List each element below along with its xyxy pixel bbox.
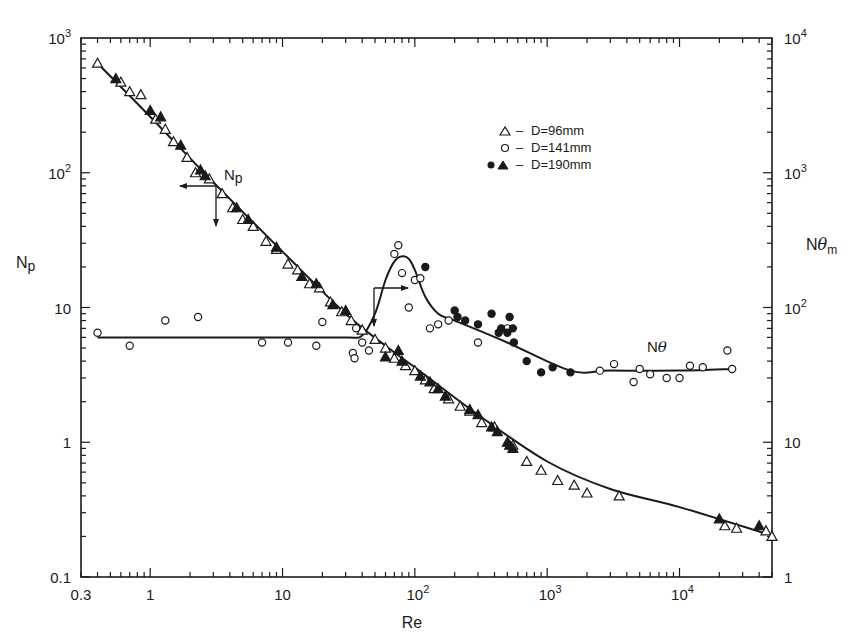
y-right-axis-title-text: Nθm — [806, 235, 837, 257]
filled-circle-marker — [488, 310, 495, 317]
y-left-tick-label: 102 — [48, 162, 71, 182]
data-points — [93, 58, 777, 540]
open-circle-marker — [359, 339, 366, 346]
open-circle-marker — [405, 304, 412, 311]
filled-circle-marker — [509, 325, 516, 332]
filled-circle-marker — [506, 313, 513, 320]
open-circle-marker — [474, 339, 481, 346]
annotations: NpNθ — [180, 166, 667, 356]
legend-dash: – — [516, 123, 524, 138]
y-left-tick-label: 10 — [54, 300, 71, 317]
open-circle-marker — [426, 325, 433, 332]
x-tick-label: 1 — [146, 586, 154, 603]
open-circle-marker — [126, 342, 133, 349]
y-right-tick-label: 10 — [784, 434, 801, 451]
open-circle-marker — [313, 342, 320, 349]
legend: – D=96mm – D=141mm – D=190mm — [488, 123, 592, 172]
filled-circle-marker — [567, 369, 574, 376]
open-triangle-marker — [582, 488, 592, 497]
y-right-tick-label: 1 — [784, 569, 792, 586]
filled-circle-marker — [422, 263, 429, 270]
chart-canvas: 0.31101021031040.1110102103110102103104 … — [0, 0, 868, 642]
open-triangle-marker — [346, 316, 356, 325]
filled-circle-marker — [462, 317, 469, 324]
x-tick-label: 102 — [406, 583, 429, 603]
open-circle-marker — [596, 367, 603, 374]
legend-dash: – — [516, 140, 524, 155]
fit-curves — [98, 63, 766, 533]
filled-triangle-icon — [498, 161, 508, 169]
open-circle-marker — [395, 242, 402, 249]
np-curve-label: Np — [224, 166, 243, 186]
x-tick-label: 103 — [539, 583, 562, 603]
legend-label-d141: D=141mm — [531, 140, 591, 155]
plot-border — [81, 38, 772, 577]
open-circle-marker — [353, 325, 360, 332]
x-tick-label: 10 — [274, 586, 291, 603]
y-right-tick-label: 103 — [784, 162, 807, 182]
legend-label-d96: D=96mm — [531, 123, 584, 138]
open-circle-icon — [502, 145, 509, 152]
filled-circle-marker — [538, 369, 545, 376]
filled-triangle-marker — [393, 345, 403, 354]
open-circle-marker — [435, 321, 442, 328]
n-fit-curve — [98, 256, 733, 373]
open-circle-marker — [94, 329, 101, 336]
open-circle-marker — [676, 374, 683, 381]
legend-item-d190: – D=190mm — [488, 157, 592, 172]
open-circle-marker — [319, 318, 326, 325]
open-circle-marker — [391, 250, 398, 257]
filled-circle-marker — [454, 313, 461, 320]
filled-circle-marker — [523, 358, 530, 365]
open-circle-marker — [194, 313, 201, 320]
filled-circle-marker — [510, 339, 517, 346]
open-triangle-marker — [217, 189, 227, 198]
legend-item-d141: – D=141mm — [502, 140, 592, 155]
plot-frame — [81, 38, 772, 577]
filled-circle-marker — [549, 364, 556, 371]
y-left-tick-label: 103 — [48, 27, 71, 47]
x-tick-label: 0.3 — [71, 586, 92, 603]
np-fit-curve — [98, 63, 766, 533]
filled-triangle-marker — [145, 105, 155, 114]
open-circle-marker — [636, 365, 643, 372]
x-axis-title: Re — [402, 614, 423, 631]
ntheta-curve-label: Nθ — [647, 338, 667, 356]
open-circle-marker — [445, 317, 452, 324]
axis-ticks — [81, 38, 772, 577]
open-circle-marker — [258, 339, 265, 346]
open-circle-marker — [647, 371, 654, 378]
open-circle-marker — [351, 355, 358, 362]
y-left-axis-title-text: Np — [16, 254, 36, 274]
y-left-tick-label: 0.1 — [50, 569, 71, 586]
open-triangle-marker — [569, 480, 579, 489]
open-circle-marker — [729, 365, 736, 372]
open-circle-marker — [724, 347, 731, 354]
y-left-tick-label: 1 — [63, 434, 71, 451]
open-triangle-icon — [500, 127, 510, 135]
legend-dash: – — [516, 157, 524, 172]
legend-item-d96: – D=96mm — [500, 123, 584, 138]
filled-triangle-marker — [380, 352, 390, 361]
open-circle-marker — [365, 347, 372, 354]
open-triangle-marker — [136, 90, 146, 99]
open-circle-marker — [630, 378, 637, 385]
open-circle-marker — [699, 364, 706, 371]
legend-label-d190: D=190mm — [531, 157, 591, 172]
open-triangle-marker — [553, 476, 563, 485]
x-tick-label: 104 — [671, 583, 694, 603]
open-triangle-marker — [182, 152, 192, 161]
filled-triangle-marker — [271, 242, 281, 251]
open-circle-marker — [610, 361, 617, 368]
open-triangle-marker — [93, 58, 103, 67]
open-circle-marker — [417, 275, 424, 282]
open-triangle-marker — [522, 456, 532, 465]
filled-triangle-marker — [754, 521, 764, 530]
open-triangle-marker — [455, 401, 465, 410]
filled-circle-marker — [474, 321, 481, 328]
open-circle-marker — [162, 317, 169, 324]
y-left-axis-title: Np — [16, 254, 36, 274]
open-circle-marker — [284, 339, 291, 346]
y-right-tick-label: 104 — [784, 27, 807, 47]
open-triangle-marker — [536, 465, 546, 474]
